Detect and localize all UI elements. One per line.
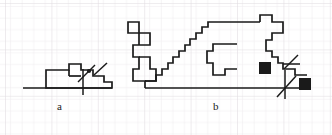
- figure-container: a b: [0, 0, 332, 135]
- figure-label-b: b: [213, 101, 219, 112]
- shape-b-inner-region: [207, 44, 237, 75]
- figure-label-a: a: [57, 101, 62, 112]
- shape-b-staircase: [145, 22, 260, 81]
- shape-b-filled-square-marker-2: [299, 78, 311, 90]
- shape-a-ray: [94, 63, 107, 75]
- shape-b-left-lobe: [128, 22, 150, 88]
- shape-b-tangent-shaft: [277, 76, 296, 97]
- shape-a-group: [23, 63, 112, 95]
- shape-b-left-lobe-lower: [139, 57, 156, 81]
- shape-b-group: [128, 15, 311, 99]
- shape-b-ray-diagonal: [284, 55, 298, 69]
- shape-b-filled-square-marker-1: [259, 62, 271, 74]
- polygon-drawing: [0, 0, 332, 135]
